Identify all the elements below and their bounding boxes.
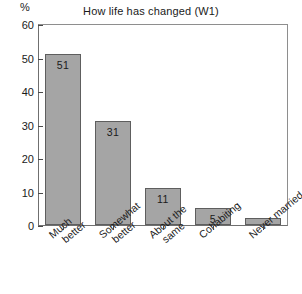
x-axis-labels: MuchbetterSomewhatbetterAbout thesameCoh… (0, 226, 302, 294)
bar-chart: % How life has changed (W1) 010203040506… (0, 0, 302, 294)
y-axis-tick-label: 10 (22, 187, 34, 198)
x-axis-tick (263, 226, 264, 230)
x-axis-tick (113, 226, 114, 230)
x-axis-tick (163, 226, 164, 230)
y-axis-tick-label: 40 (22, 87, 34, 98)
x-axis-tick (63, 226, 64, 230)
y-axis-tick-label: 50 (22, 53, 34, 64)
bar[interactable]: 51 (45, 54, 81, 225)
bars-container: 5131115 (39, 24, 287, 225)
chart-title: How life has changed (W1) (0, 5, 302, 17)
y-axis-tick-label: 20 (22, 154, 34, 165)
bar-value-label: 51 (46, 60, 80, 71)
y-axis-tick-label: 60 (22, 20, 34, 31)
y-axis-tick-label: 30 (22, 120, 34, 131)
bar-value-label: 11 (146, 194, 180, 205)
x-axis-tick (213, 226, 214, 230)
bar-value-label: 31 (96, 127, 130, 138)
